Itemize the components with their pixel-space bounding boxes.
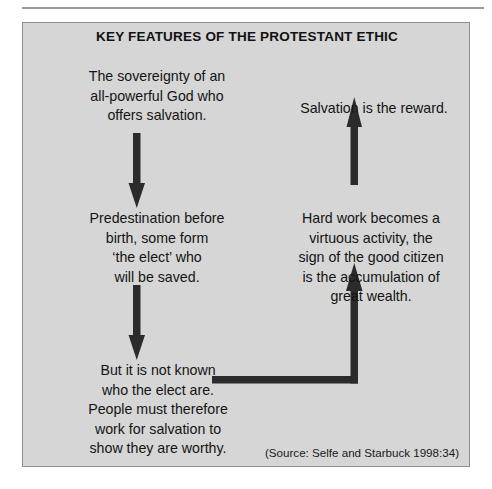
source-citation: (Source: Selfe and Starbuck 1998:34) — [265, 446, 459, 459]
node-not-known: But it is not known who the elect are. P… — [63, 361, 253, 459]
protestant-ethic-panel: KEY FEATURES OF THE PROTESTANT ETHIC — [22, 22, 470, 467]
node-salvation-reward: Salvation is the reward. — [279, 99, 469, 119]
node-sovereignty: The sovereignty of an all-powerful God w… — [67, 67, 247, 126]
top-horizontal-rule — [22, 7, 484, 9]
node-hard-work: Hard work becomes a virtuous activity, t… — [271, 209, 471, 307]
node-predestination: Predestination before birth, some form ‘… — [67, 209, 247, 287]
arrow-down-predestination-to-notknown — [129, 285, 146, 360]
figure-root: KEY FEATURES OF THE PROTESTANT ETHIC — [0, 0, 492, 489]
page-title: KEY FEATURES OF THE PROTESTANT ETHIC — [23, 29, 471, 44]
arrow-down-sovereignty-to-predestination — [129, 133, 146, 208]
